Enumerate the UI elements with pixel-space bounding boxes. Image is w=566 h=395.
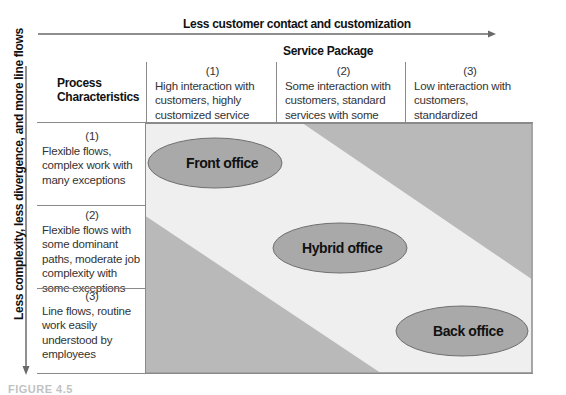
column-text-line: customers, highly [155, 93, 270, 108]
row-text-line: some dominant [42, 237, 142, 252]
column-text-line: High interaction with [155, 79, 270, 94]
row-label-3: (3) Line flows, routine work easily unde… [42, 289, 142, 362]
front-office-label: Front office [186, 155, 258, 171]
header-divider-3 [405, 62, 406, 123]
process-characteristics-title: Process Characteristics [57, 76, 139, 104]
column-number: (3) [414, 64, 526, 79]
vertical-axis-label: Less complexity, less divergence, and mo… [12, 28, 26, 320]
row-text-line: employees [42, 347, 142, 362]
column-number: (1) [155, 64, 270, 79]
row-text-line: many exceptions [42, 173, 142, 188]
process-characteristics-title-line2: Characteristics [57, 90, 139, 104]
row-text-line: paths, moderate job [42, 252, 142, 267]
row-text-line: complex work with [42, 158, 142, 173]
column-number: (2) [285, 64, 402, 79]
row-text-line: understood by [42, 333, 142, 348]
row-number: (3) [42, 289, 142, 304]
column-text-line: customers, standard [285, 93, 402, 108]
row-number: (2) [42, 208, 142, 223]
row-label-2: (2) Flexible flows with some dominant pa… [42, 208, 142, 295]
header-divider-2 [276, 62, 277, 123]
horizontal-axis-arrow-icon [36, 28, 498, 40]
column-header-1: (1) High interaction with customers, hig… [155, 64, 270, 122]
column-text-line: Low interaction with [414, 79, 526, 94]
process-characteristics-title-line1: Process [57, 76, 139, 90]
row-label-1: (1) Flexible flows, complex work with ma… [42, 129, 142, 187]
row-text-line: Flexible flows with [42, 223, 142, 238]
hybrid-office-label: Hybrid office [302, 240, 382, 256]
row-text-line: complexity with [42, 266, 142, 281]
header-divider-1 [146, 62, 147, 123]
column-text-line: customized service [155, 108, 270, 123]
column-text-line: Some interaction with [285, 79, 402, 94]
row-text-line: Flexible flows, [42, 144, 142, 159]
service-package-title: Service Package [283, 44, 373, 58]
figure-caption: FIGURE 4.5 [8, 383, 73, 395]
back-office-label: Back office [433, 323, 503, 339]
row-number: (1) [42, 129, 142, 144]
column-text-line: customers, standardized [414, 93, 526, 122]
row-divider-1 [37, 205, 145, 206]
row-text-line: work easily [42, 318, 142, 333]
row-text-line: Line flows, routine [42, 304, 142, 319]
